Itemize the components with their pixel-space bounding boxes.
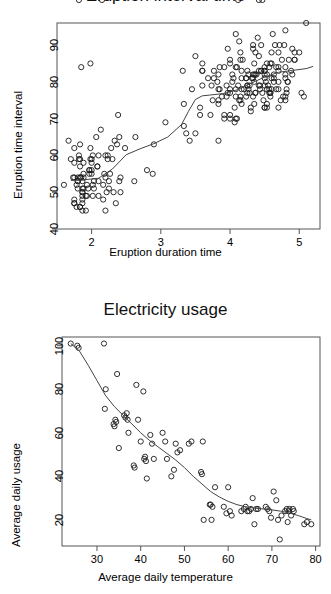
- data-points: [68, 341, 314, 542]
- x-tick-label: 40: [135, 553, 147, 565]
- y-tick-label: 100: [53, 337, 65, 355]
- y-tick-label: 40: [48, 223, 60, 235]
- y-tick-label: 60: [48, 149, 60, 161]
- x-tick-label: 80: [310, 553, 322, 565]
- x-tick-label: 30: [91, 553, 103, 565]
- data-points: [61, 0, 308, 213]
- y-tick-label: 50: [48, 186, 60, 198]
- y-tick-label: 80: [48, 76, 60, 88]
- eruption-figure: Eruption interval time Eruption time int…: [0, 0, 331, 297]
- x-tick-label: 4: [227, 236, 233, 248]
- x-tick-label: 5: [296, 236, 302, 248]
- y-tick-label: 70: [48, 113, 60, 125]
- y-axis-title-electricity: Average daily usage: [10, 443, 22, 547]
- electricity-figure: Electricity usage Average daily usage Av…: [0, 297, 331, 594]
- y-tick-label: 60: [53, 427, 65, 439]
- y-tick-label: 90: [48, 39, 60, 51]
- x-tick-label: 50: [178, 553, 190, 565]
- x-tick-label: 2: [89, 236, 95, 248]
- electricity-scatter-plot: [0, 297, 331, 594]
- x-axis-title-electricity: Average daily temperature: [0, 571, 331, 583]
- y-tick-label: 80: [53, 383, 65, 395]
- x-tick-label: 3: [158, 236, 164, 248]
- y-axis-title-eruption: Eruption time interval: [12, 91, 24, 199]
- x-tick-label: 70: [266, 553, 278, 565]
- y-tick-label: 40: [53, 470, 65, 482]
- x-axis-title-eruption: Eruption duration time: [0, 246, 331, 258]
- y-tick-label: 20: [53, 514, 65, 526]
- x-tick-label: 60: [222, 553, 234, 565]
